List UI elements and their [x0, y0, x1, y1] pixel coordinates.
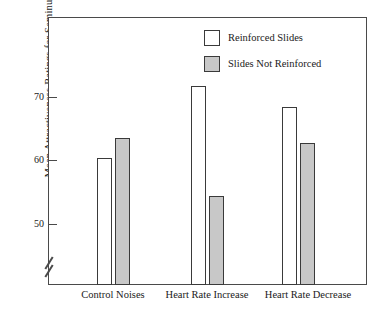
bar-heart-rate-decrease-not-reinforced	[300, 143, 315, 285]
legend-swatch-filled-icon	[204, 56, 220, 72]
y-axis-line	[48, 17, 49, 285]
legend-swatch-open-icon	[204, 30, 220, 46]
legend-label-reinforced-slides: Reinforced Slides	[228, 32, 303, 43]
bar-control-noises-not-reinforced	[115, 138, 130, 285]
y-tick-mark-50	[48, 224, 57, 225]
bar-heart-rate-increase-reinforced	[191, 86, 206, 285]
chart-container: Mean Attractiveness Ratings for Seminude…	[0, 0, 377, 316]
y-tick-label-50: 50	[18, 219, 44, 229]
legend-item-slides-not-reinforced: Slides Not Reinforced	[204, 55, 321, 72]
bar-heart-rate-increase-not-reinforced	[209, 196, 224, 285]
bar-control-noises-reinforced	[97, 158, 112, 285]
legend: Reinforced Slides Slides Not Reinforced	[204, 29, 321, 81]
legend-label-slides-not-reinforced: Slides Not Reinforced	[228, 58, 321, 69]
y-tick-mark-70	[48, 97, 57, 98]
legend-item-reinforced-slides: Reinforced Slides	[204, 29, 321, 46]
bar-heart-rate-decrease-reinforced	[282, 107, 297, 285]
y-tick-label-60: 60	[18, 155, 44, 165]
y-tick-mark-60	[48, 160, 57, 161]
y-tick-label-70: 70	[18, 92, 44, 102]
x-tick-label-heart-rate-decrease: Heart Rate Decrease	[243, 289, 373, 300]
